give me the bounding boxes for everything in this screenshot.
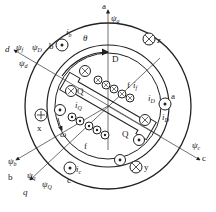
coil-x-label: x bbox=[37, 123, 42, 133]
coil-y-label: y bbox=[144, 162, 149, 172]
psi-f-label: ψf bbox=[16, 42, 25, 53]
coil-y bbox=[130, 161, 142, 173]
i-D-right-label: iD bbox=[148, 93, 156, 104]
coil-b bbox=[56, 39, 68, 51]
psi-q-label: ψq bbox=[27, 170, 36, 181]
coil-b-label: b bbox=[49, 41, 54, 51]
a-axis-label: a bbox=[102, 1, 106, 11]
coil-a-label: a bbox=[171, 91, 175, 101]
Q-upper-label: Q bbox=[77, 86, 84, 96]
theta-label: θ bbox=[83, 33, 88, 43]
b-axis-label: b bbox=[8, 172, 13, 182]
damper-Q-lower bbox=[115, 155, 126, 166]
coil-a bbox=[159, 98, 171, 110]
damper-Q-right bbox=[134, 135, 145, 146]
psi-b-label: ψb bbox=[8, 156, 17, 167]
q-axis-label: q bbox=[23, 187, 28, 197]
psi-d-label: ψd bbox=[19, 58, 29, 69]
omega-label: ω bbox=[60, 129, 66, 139]
damper-D-right bbox=[140, 115, 151, 126]
psi-a-label: ψa bbox=[111, 13, 120, 24]
Q-lower-label: Q bbox=[122, 129, 129, 139]
damper-D-upper bbox=[80, 66, 91, 77]
damper-D-left bbox=[55, 105, 66, 116]
psi-c-label: ψc bbox=[192, 140, 201, 151]
D-label: D bbox=[112, 54, 119, 64]
i-Q-label: iQ bbox=[75, 100, 83, 111]
i-f-label: if bbox=[133, 80, 139, 91]
coil-c-label: c bbox=[67, 175, 71, 185]
coil-z-label: z bbox=[157, 35, 161, 45]
machine-diagram: a ψa d ψf ψD ψd b ib θ D z Q iQ f if iD … bbox=[0, 0, 216, 212]
f-lower-label: f bbox=[84, 141, 87, 151]
i-c-label: ic bbox=[76, 164, 82, 175]
coil-z bbox=[143, 33, 155, 45]
i-b-label: ib bbox=[66, 27, 72, 38]
d-axis-label: d bbox=[5, 44, 10, 54]
f-upper-label: f bbox=[127, 80, 130, 90]
psi-Q-label: ψQ bbox=[42, 179, 53, 190]
coil-x bbox=[35, 109, 47, 121]
coil-c bbox=[64, 162, 76, 174]
c-axis-label: c bbox=[202, 153, 206, 163]
psi-D-label: ψD bbox=[32, 42, 43, 53]
damper-Q-upper bbox=[66, 86, 77, 97]
